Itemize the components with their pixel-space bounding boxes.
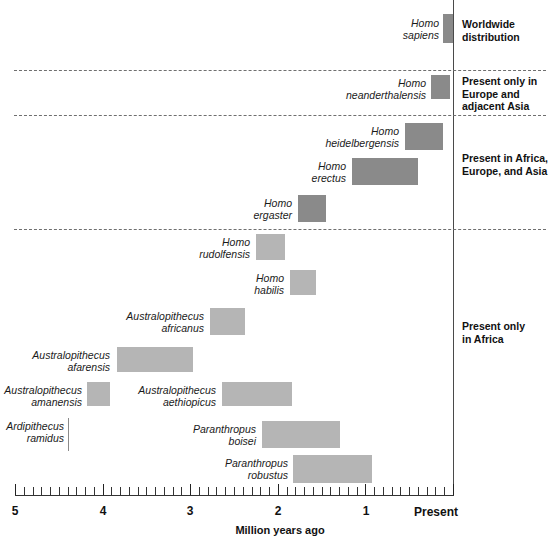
x-axis-minor-tick: [199, 487, 200, 495]
x-axis-minor-tick: [164, 487, 165, 495]
x-axis-minor-tick: [225, 487, 226, 495]
species-label-australopithecus-amanensis: Australopithecus amanensis: [2, 385, 82, 408]
species-label-homo-erectus: Homo erectus: [288, 161, 346, 184]
x-axis-minor-tick: [322, 487, 323, 495]
x-axis-minor-tick: [146, 487, 147, 495]
x-axis-tick-label: 1: [351, 504, 381, 518]
distribution-note-africa-only: Present only in Africa: [462, 320, 558, 345]
x-axis-minor-tick: [252, 487, 253, 495]
species-label-australopithecus-afarensis: Australopithecus afarensis: [14, 350, 110, 373]
range-marker-ardipithecus-ramidus: [68, 418, 69, 451]
x-axis-minor-tick: [50, 487, 51, 495]
range-bar-australopithecus-afarensis: [117, 347, 193, 372]
x-axis-minor-tick: [409, 487, 410, 495]
species-label-paranthropus-boisei: Paranthropus boisei: [170, 424, 256, 447]
x-axis-line: [15, 495, 454, 496]
range-bar-homo-heidelbergensis: [405, 123, 443, 150]
x-axis-minor-tick: [435, 487, 436, 495]
x-axis-minor-tick: [418, 487, 419, 495]
species-label-homo-heidelbergensis: Homo heidelbergensis: [294, 126, 399, 149]
range-bar-homo-habilis: [290, 270, 316, 295]
species-label-ardipithecus-ramidus: Ardipithecus ramidus: [2, 421, 64, 444]
x-axis-minor-tick: [85, 487, 86, 495]
range-bar-homo-erectus: [352, 158, 418, 185]
range-bar-australopithecus-amanensis: [87, 382, 110, 406]
range-bar-australopithecus-africanus: [210, 308, 245, 335]
x-axis-present-label: Present: [414, 505, 458, 519]
species-label-homo-neanderthalensis: Homo neanderthalensis: [320, 78, 426, 101]
species-label-homo-habilis: Homo habilis: [230, 273, 284, 296]
x-axis-minor-tick: [348, 487, 349, 495]
distribution-note-africa-europe-asia: Present in Africa, Europe, and Asia: [462, 152, 560, 177]
x-axis-minor-tick: [68, 487, 69, 495]
present-reference-line: [453, 0, 454, 492]
x-axis-minor-tick: [243, 487, 244, 495]
x-axis-minor-tick: [295, 487, 296, 495]
range-bar-homo-neanderthalensis: [431, 75, 450, 99]
plot-area: Homo sapiens Homo neanderthalensis Homo …: [0, 0, 560, 542]
species-label-homo-ergaster: Homo ergaster: [230, 198, 292, 221]
x-axis-minor-tick: [41, 487, 42, 495]
x-axis-minor-tick: [392, 487, 393, 495]
x-axis-major-tick: [278, 484, 279, 495]
x-axis-minor-tick: [216, 487, 217, 495]
x-axis-minor-tick: [260, 487, 261, 495]
range-bar-paranthropus-robustus: [293, 455, 372, 483]
x-axis-minor-tick: [383, 487, 384, 495]
x-axis-minor-tick: [138, 487, 139, 495]
x-axis-tick-label: 2: [263, 504, 293, 518]
range-bar-australopithecus-aethiopicus: [222, 382, 292, 406]
x-axis-minor-tick: [33, 487, 34, 495]
x-axis-minor-tick: [313, 487, 314, 495]
x-axis-major-tick: [103, 484, 104, 495]
x-axis-minor-tick: [120, 487, 121, 495]
range-bar-homo-rudolfensis: [256, 234, 285, 260]
x-axis-minor-tick: [208, 487, 209, 495]
x-axis-major-tick: [190, 484, 191, 495]
group-divider-europe-asia: [14, 115, 546, 116]
x-axis-minor-tick: [374, 487, 375, 495]
x-axis-minor-tick: [59, 487, 60, 495]
species-label-australopithecus-aethiopicus: Australopithecus aethiopicus: [120, 385, 216, 408]
x-axis-minor-tick: [400, 487, 401, 495]
x-axis-major-tick: [453, 484, 454, 495]
x-axis-tick-label: 4: [88, 504, 118, 518]
species-label-paranthropus-robustus: Paranthropus robustus: [200, 458, 288, 481]
x-axis-minor-tick: [173, 487, 174, 495]
x-axis-major-tick: [15, 484, 16, 495]
distribution-note-europe-asia: Present only in Europe and adjacent Asia: [462, 75, 558, 113]
x-axis-minor-tick: [24, 487, 25, 495]
species-label-homo-rudolfensis: Homo rudolfensis: [180, 237, 250, 260]
x-axis-minor-tick: [330, 487, 331, 495]
x-axis-title: Million years ago: [0, 524, 560, 536]
x-axis-minor-tick: [234, 487, 235, 495]
x-axis-tick-label: 5: [0, 504, 30, 518]
x-axis-minor-tick: [304, 487, 305, 495]
x-axis-minor-tick: [287, 487, 288, 495]
x-axis-minor-tick: [94, 487, 95, 495]
x-axis-minor-tick: [444, 487, 445, 495]
species-label-australopithecus-africanus: Australopithecus africanus: [108, 311, 204, 334]
range-bar-homo-sapiens: [443, 14, 453, 43]
x-axis-minor-tick: [427, 487, 428, 495]
group-divider-africa-europe-asia: [14, 229, 546, 230]
hominin-timeline-chart: Homo sapiens Homo neanderthalensis Homo …: [0, 0, 560, 542]
x-axis-minor-tick: [339, 487, 340, 495]
group-divider-worldwide: [14, 70, 546, 71]
distribution-note-worldwide: Worldwide distribution: [462, 18, 558, 43]
x-axis-minor-tick: [111, 487, 112, 495]
x-axis-minor-tick: [181, 487, 182, 495]
species-label-homo-sapiens: Homo sapiens: [393, 18, 439, 41]
x-axis-minor-tick: [155, 487, 156, 495]
x-axis-major-tick: [365, 484, 366, 495]
range-bar-paranthropus-boisei: [262, 421, 340, 448]
x-axis-minor-tick: [76, 487, 77, 495]
x-axis-minor-tick: [357, 487, 358, 495]
x-axis-minor-tick: [269, 487, 270, 495]
x-axis-minor-tick: [129, 487, 130, 495]
range-bar-homo-ergaster: [298, 195, 326, 222]
x-axis-tick-label: 3: [175, 504, 205, 518]
